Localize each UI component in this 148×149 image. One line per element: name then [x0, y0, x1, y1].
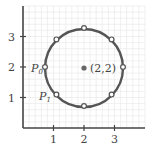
circle-point — [109, 37, 114, 42]
circle-point — [54, 92, 59, 97]
circle-point — [82, 26, 87, 31]
circle-point — [109, 92, 114, 97]
circle-point — [82, 104, 87, 109]
circle-point — [121, 65, 126, 70]
center-point — [81, 65, 86, 70]
y-tick-label: 2 — [8, 61, 15, 74]
x-tick-label: 3 — [111, 133, 118, 146]
center-label: (2,2) — [90, 62, 116, 75]
x-tick-label: 2 — [81, 133, 88, 146]
x-tick-label: 1 — [50, 133, 57, 146]
y-tick-label: 1 — [8, 92, 15, 105]
circle-diagram: 123123 (2,2) P0 P1 — [0, 0, 148, 149]
y-tick-label: 3 — [8, 31, 15, 44]
circle-point — [54, 37, 59, 42]
p1-label: P1 — [38, 90, 51, 104]
circle-point — [43, 65, 48, 70]
